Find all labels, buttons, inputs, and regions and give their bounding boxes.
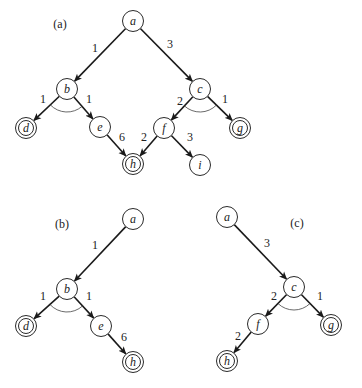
node-label: c xyxy=(197,82,203,96)
node-label: h xyxy=(130,157,136,171)
panel-label: (b) xyxy=(55,217,69,231)
and-connector-arc xyxy=(184,105,216,112)
edge-weight-label: 2 xyxy=(177,94,183,108)
edge-weight-label: 2 xyxy=(271,289,277,303)
node-d-goal: d xyxy=(16,316,37,337)
node-g-goal: g xyxy=(230,118,251,139)
edge-weight-label: 3 xyxy=(187,130,193,144)
node-g-goal: g xyxy=(321,315,342,336)
node-a: a xyxy=(123,11,144,32)
node-label: b xyxy=(64,282,70,296)
edge-b-d xyxy=(34,296,59,319)
edge-weight-label: 1 xyxy=(86,92,92,106)
edge-weight-label: 1 xyxy=(92,41,98,55)
and-connector-arc xyxy=(50,105,82,112)
node-label: a xyxy=(130,14,136,28)
edge-c-g xyxy=(208,96,233,120)
node-label: d xyxy=(23,319,30,333)
node-label: h xyxy=(130,355,136,369)
node-e: e xyxy=(91,316,112,337)
node-i: i xyxy=(190,155,211,176)
node-d-goal: d xyxy=(16,118,37,139)
panel-label: (a) xyxy=(53,17,66,31)
node-label: a xyxy=(224,210,230,224)
edge-a-b xyxy=(75,227,126,281)
edge-weight-label: 1 xyxy=(40,92,46,106)
edge-b-d xyxy=(34,96,59,120)
edge-weight-label: 2 xyxy=(141,130,147,144)
edge-weight-label: 3 xyxy=(264,236,270,250)
node-label: b xyxy=(64,82,70,96)
node-label: c xyxy=(291,280,297,294)
node-label: d xyxy=(23,121,30,135)
node-h-goal: h xyxy=(123,352,144,373)
node-b: b xyxy=(57,79,78,100)
edge-weight-label: 1 xyxy=(40,289,46,303)
node-h-goal: h xyxy=(123,154,144,175)
node-label: a xyxy=(130,212,136,226)
edge-weight-label: 2 xyxy=(235,329,241,343)
edge-weight-label: 1 xyxy=(86,289,92,303)
and-connector-arc xyxy=(278,303,310,310)
node-f: f xyxy=(248,314,269,335)
node-b: b xyxy=(57,279,78,300)
node-c: c xyxy=(190,79,211,100)
node-f: f xyxy=(154,118,175,139)
edge-a-b xyxy=(75,29,126,82)
and-connector-arc xyxy=(50,304,83,312)
node-c: c xyxy=(284,277,305,298)
node-label: i xyxy=(198,158,201,172)
panel-c: (c)3212acfgh xyxy=(217,207,342,372)
node-h-goal: h xyxy=(217,351,238,372)
panel-a: (a)131121623abcdefghi xyxy=(16,11,251,176)
node-a: a xyxy=(217,207,238,228)
edge-weight-label: 1 xyxy=(317,289,323,303)
node-label: g xyxy=(237,121,243,135)
edge-weight-label: 1 xyxy=(222,92,228,106)
edge-weight-label: 6 xyxy=(119,130,125,144)
node-label: g xyxy=(328,318,334,332)
node-label: e xyxy=(98,319,104,333)
and-or-graph-diagram: (a)131121623abcdefghi(b)1116abdeh(c)3212… xyxy=(0,0,362,388)
panel-b: (b)1116abdeh xyxy=(16,209,144,373)
node-e: e xyxy=(90,117,111,138)
panel-label: (c) xyxy=(290,216,303,230)
edge-weight-label: 3 xyxy=(167,37,173,51)
edge-weight-label: 1 xyxy=(92,238,98,252)
node-a: a xyxy=(123,209,144,230)
edge-a-c xyxy=(234,225,286,279)
edge-weight-label: 6 xyxy=(121,330,127,344)
node-label: h xyxy=(224,354,230,368)
node-label: e xyxy=(97,120,103,134)
